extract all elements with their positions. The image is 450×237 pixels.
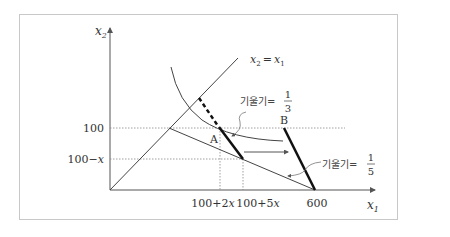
x-tick-100-plus-5x: 100+5x <box>236 197 280 210</box>
slope-2-numerator: 1 <box>368 152 374 163</box>
x-tick-100-plus-2x: 100+2x <box>191 197 235 210</box>
y-axis-label: x2 <box>95 24 107 40</box>
point-b-label: B <box>280 114 288 127</box>
x-axis-label: x1 <box>367 198 379 214</box>
dashed-segment <box>199 98 218 126</box>
slope-2-label: 기울기= <box>322 159 357 170</box>
y-tick-100: 100 <box>83 122 104 135</box>
thick-line-b <box>284 128 315 190</box>
x-tick-600: 600 <box>307 197 328 210</box>
slope-1-label: 기울기= <box>240 96 275 107</box>
slope-1-numerator: 1 <box>285 89 291 100</box>
economics-diagram: x2 x1 x2=x1 100 100−x 100+2x 100+5x 600 … <box>0 0 450 237</box>
slope-1-leader <box>232 112 246 136</box>
diagonal-label: x2=x1 <box>250 53 285 68</box>
figure-frame <box>20 15 398 220</box>
slope-1-denominator: 3 <box>285 103 291 114</box>
y-tick-100-minus-x: 100−x <box>68 153 105 166</box>
slope-2-denominator: 5 <box>368 166 374 177</box>
point-a-label: A <box>209 133 219 146</box>
